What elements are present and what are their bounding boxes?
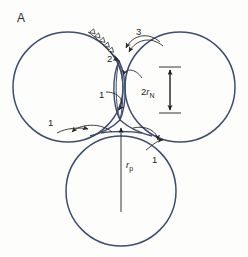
dimension-pore-radius: rp [121,128,133,212]
dimension-neck-diameter: 2rN [141,67,181,113]
annotation-1-neck-label: 1 [99,89,104,100]
annotation-1-left-label: 1 [48,117,53,128]
dim-pore-subscript: p [129,165,133,173]
dimension-neck-label: 2rN [141,86,155,99]
annotation-1-right-label: 1 [152,154,157,165]
annotation-2-label: 2 [107,53,112,64]
circle-group [13,32,235,246]
diagram-canvas: A [0,0,248,257]
panel-label: A [17,11,25,25]
dimension-pore-label: rp [126,159,133,173]
dim-neck-subscript: N [149,92,154,99]
annotation-3-label: 3 [136,26,141,37]
figure-panel-a: A [0,0,248,257]
annotation-3-curved-arrow: 3 [126,26,163,52]
annotation-1-neck: 1 [99,89,122,110]
